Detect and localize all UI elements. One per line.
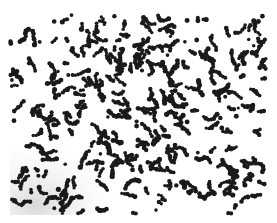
micrograph-frame: Grayscale micrograph of dark irregular p… [0,0,277,223]
particle-micrograph [0,0,277,223]
